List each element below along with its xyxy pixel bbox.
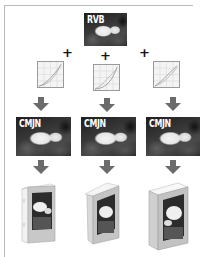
tone-curve-icon: [153, 61, 180, 88]
down-arrow-icon: [165, 97, 181, 111]
down-arrow-icon: [33, 160, 49, 174]
cmyk-output-image-1: CMJN: [16, 117, 71, 156]
cmyk-output-image-3: CMJN: [146, 117, 200, 156]
plus-sign-2: +: [100, 49, 111, 62]
rgb-source-image: RVB: [84, 13, 127, 46]
plus-sign-3: +: [139, 46, 150, 59]
down-arrow-icon: [99, 98, 115, 112]
cmyk-label: CMJN: [149, 118, 171, 130]
frame-left-border: [4, 5, 5, 257]
cmyk-label: CMJN: [19, 118, 41, 130]
hardcover-book-icon: [148, 181, 190, 251]
curve-graph: [38, 62, 63, 87]
tone-curve-icon: [93, 64, 120, 91]
curve-graph: [154, 62, 179, 87]
plus-sign-1: +: [62, 46, 73, 59]
cmyk-label: CMJN: [84, 118, 106, 130]
down-arrow-icon: [99, 160, 115, 174]
cmyk-output-image-2: CMJN: [81, 117, 136, 156]
down-arrow-icon: [165, 160, 181, 174]
down-arrow-icon: [33, 97, 49, 111]
curve-graph: [94, 65, 119, 90]
paperback-book-icon: [85, 182, 121, 246]
rgb-label: RVB: [87, 14, 104, 26]
frame-top-border: [4, 5, 193, 6]
softcover-book-icon: [21, 183, 57, 245]
tone-curve-icon: [37, 61, 64, 88]
